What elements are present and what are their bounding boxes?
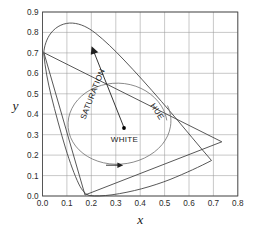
x-tick-6: 0.6: [183, 199, 195, 208]
x-tick-0: 0.0: [37, 199, 49, 208]
y-tick-2: 0.2: [27, 151, 39, 160]
y-tick-labels: 0.0 0.1 0.2 0.3 0.4 0.5 0.6 0.7 0.8 0.9: [27, 8, 39, 201]
white-label: WHITE: [111, 135, 139, 144]
chart-canvas: 0.0 0.1 0.2 0.3 0.4 0.5 0.6 0.7 0.8 0.0 …: [0, 0, 257, 232]
x-tick-5: 0.5: [159, 199, 171, 208]
chromaticity-diagram-figure: 0.0 0.1 0.2 0.3 0.4 0.5 0.6 0.7 0.8 0.0 …: [0, 0, 257, 232]
x-tick-1: 0.1: [61, 199, 73, 208]
saturation-arrow-head: [91, 46, 99, 55]
x-tick-labels: 0.0 0.1 0.2 0.3 0.4 0.5 0.6 0.7 0.8: [37, 199, 244, 208]
saturation-label: SATURATION: [79, 67, 107, 120]
x-tick-2: 0.2: [86, 199, 98, 208]
x-tick-7: 0.7: [208, 199, 220, 208]
white-point-dot: [122, 126, 126, 130]
y-tick-7: 0.7: [27, 49, 39, 58]
y-tick-0: 0.0: [27, 192, 39, 201]
x-axis-title: x: [136, 212, 143, 227]
hue-circle-arc: [68, 83, 171, 164]
y-tick-5: 0.5: [27, 90, 39, 99]
y-tick-3: 0.3: [27, 131, 39, 140]
x-tick-4: 0.4: [135, 199, 147, 208]
hue-label: HUE: [148, 102, 165, 122]
y-axis-title: y: [11, 98, 19, 113]
gamut-triangle: [44, 53, 222, 195]
y-tick-8: 0.8: [27, 28, 39, 37]
y-tick-1: 0.1: [27, 172, 39, 181]
x-tick-3: 0.3: [110, 199, 122, 208]
spectral-locus-lower: [90, 161, 212, 196]
y-tick-6: 0.6: [27, 69, 39, 78]
hue-arrow-head: [117, 162, 123, 168]
grid-vertical: [43, 12, 238, 196]
y-tick-4: 0.4: [27, 110, 39, 119]
x-tick-8: 0.8: [232, 199, 244, 208]
y-tick-9: 0.9: [27, 8, 39, 17]
